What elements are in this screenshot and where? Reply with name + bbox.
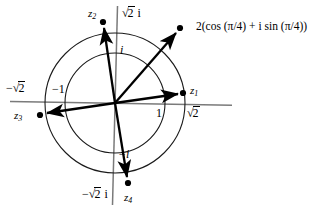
vector-polar-point [115, 33, 176, 103]
point-label-z2: z2 [88, 8, 96, 21]
vector-z2 [104, 28, 115, 103]
point-z1 [180, 90, 186, 96]
axis-label-minus-i: −i [118, 148, 129, 160]
point-label-z3-subscript: 3 [18, 114, 22, 123]
vector-z4 [115, 103, 127, 177]
vector-z3 [47, 103, 115, 113]
point-label-z1-subscript: 1 [194, 89, 198, 98]
point-z4 [125, 180, 131, 186]
axis-label-minus-sqrt2: −√2 [6, 81, 25, 94]
point-polar [177, 25, 183, 31]
point-label-z3: z3 [14, 110, 22, 123]
vector-z1 [115, 94, 178, 103]
axis-label-sqrt2: √2 [187, 106, 200, 119]
point-label-z2-subscript: 2 [92, 12, 96, 21]
axis-label-minus-one: −1 [52, 83, 65, 95]
point-label-z4: z4 [124, 192, 132, 205]
complex-plane-figure: z2 √2 i i 2(cos (π/4) + i sin (π/4)) z1 … [0, 0, 317, 211]
point-z3 [37, 112, 43, 118]
point-label-z1: z1 [190, 85, 198, 98]
axis-label-i: i [120, 44, 123, 56]
point-z2 [100, 19, 106, 25]
axis-label-sqrt2-i: √2 i [122, 6, 141, 19]
polar-form-label: 2(cos (π/4) + i sin (π/4)) [196, 21, 307, 33]
axis-label-minus-sqrt2-i: −√2 i [82, 187, 108, 200]
point-label-z4-subscript: 4 [128, 196, 132, 205]
axis-label-one: 1 [156, 107, 162, 119]
